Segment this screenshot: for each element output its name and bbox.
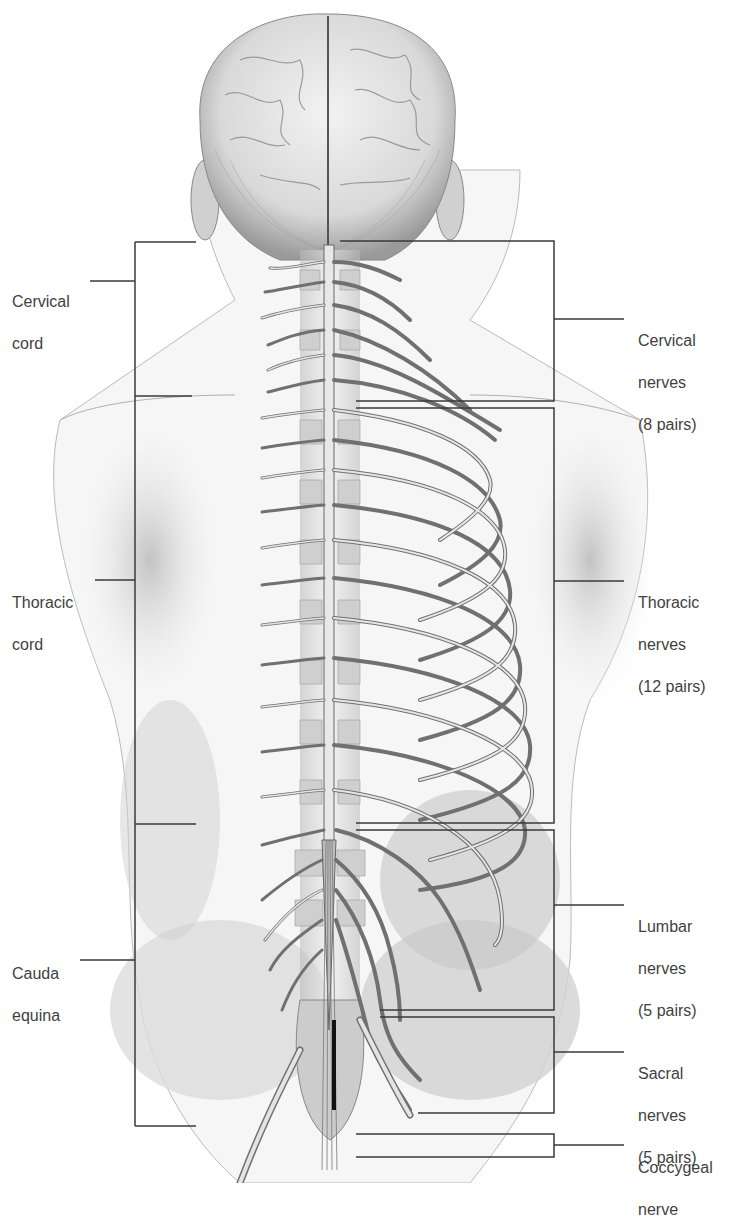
label-line: nerve [638, 1199, 713, 1219]
label-line: Cauda [12, 963, 60, 984]
label-line: Coccygeal [638, 1157, 713, 1178]
label-cauda-equina: Cauda equina [12, 942, 60, 1047]
label-line: Thoracic [12, 592, 73, 613]
label-line: Cervical [12, 291, 70, 312]
label-line: equina [12, 1005, 60, 1026]
label-cervical-cord: Cervical cord [12, 270, 70, 375]
head [191, 14, 464, 260]
label-line: nerves [638, 958, 697, 979]
label-line: Cervical [638, 330, 697, 351]
label-line: (12 pairs) [638, 676, 706, 697]
label-cervical-nerves: Cervical nerves (8 pairs) [638, 309, 697, 456]
label-thoracic-nerves: Thoracic nerves (12 pairs) [638, 571, 706, 718]
label-line: nerves [638, 634, 706, 655]
label-line: cord [12, 333, 70, 354]
label-line: cord [12, 634, 73, 655]
label-thoracic-cord: Thoracic cord [12, 571, 73, 676]
label-line: (8 pairs) [638, 414, 697, 435]
label-line: Sacral [638, 1063, 697, 1084]
label-line: (5 pairs) [638, 1000, 697, 1021]
label-line: Thoracic [638, 592, 706, 613]
label-line: Lumbar [638, 916, 697, 937]
label-line: nerves [638, 372, 697, 393]
label-line: nerves [638, 1105, 697, 1126]
label-coccygeal-nerve: Coccygeal nerve [638, 1136, 713, 1219]
label-lumbar-nerves: Lumbar nerves (5 pairs) [638, 895, 697, 1042]
